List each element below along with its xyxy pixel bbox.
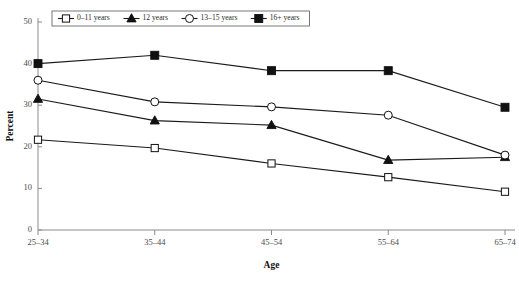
legend-label: 16+ years bbox=[270, 13, 300, 22]
legend-item[interactable]: 13–15 years bbox=[182, 13, 238, 22]
x-tick-label: 35–44 bbox=[144, 237, 166, 247]
x-tick-label: 25–34 bbox=[27, 237, 49, 247]
data-point bbox=[501, 188, 508, 195]
y-tick-label: 30 bbox=[24, 99, 33, 109]
y-tick-label: 10 bbox=[24, 182, 33, 192]
data-point bbox=[151, 144, 158, 151]
data-point bbox=[385, 174, 392, 181]
y-axis-title: Percent bbox=[5, 110, 15, 142]
legend-marker bbox=[62, 15, 69, 22]
y-tick-label: 0 bbox=[28, 224, 32, 234]
legend-label: 0–11 years bbox=[77, 13, 110, 22]
series-1 bbox=[34, 136, 508, 195]
data-point bbox=[34, 76, 42, 84]
series-4 bbox=[34, 51, 509, 111]
data-point bbox=[384, 67, 392, 75]
x-tick-label: 45–54 bbox=[261, 237, 283, 247]
data-point bbox=[268, 160, 275, 167]
legend-item[interactable]: 0–11 years bbox=[58, 13, 110, 22]
data-point bbox=[33, 94, 42, 102]
legend-item[interactable]: 16+ years bbox=[251, 13, 300, 22]
data-point bbox=[268, 67, 276, 75]
legend-label: 12 years bbox=[143, 13, 169, 22]
legend-marker bbox=[186, 15, 194, 23]
y-tick-label: 50 bbox=[24, 16, 33, 26]
chart-canvas: 0102030405025–3435–4445–5455–6465–74AgeP… bbox=[0, 0, 519, 282]
data-point bbox=[501, 103, 509, 111]
data-point bbox=[34, 136, 41, 143]
x-tick-label: 55–64 bbox=[378, 237, 400, 247]
data-point bbox=[384, 111, 392, 119]
line-chart: 0102030405025–3435–4445–5455–6465–74AgeP… bbox=[0, 0, 519, 282]
legend-marker bbox=[255, 15, 263, 23]
data-point bbox=[267, 120, 276, 128]
y-tick-label: 20 bbox=[24, 141, 33, 151]
data-point bbox=[151, 51, 159, 59]
data-point bbox=[268, 103, 276, 111]
y-tick-label: 40 bbox=[24, 58, 33, 68]
legend-label: 13–15 years bbox=[201, 13, 238, 22]
x-tick-label: 65–74 bbox=[494, 237, 516, 247]
series-line bbox=[38, 55, 505, 107]
x-axis-title: Age bbox=[264, 260, 280, 270]
series-line bbox=[38, 80, 505, 155]
data-point bbox=[501, 151, 509, 159]
data-point bbox=[151, 98, 159, 106]
data-point bbox=[34, 60, 42, 68]
legend: 0–11 years12 years13–15 years16+ years bbox=[52, 11, 310, 26]
series-3 bbox=[34, 76, 509, 159]
